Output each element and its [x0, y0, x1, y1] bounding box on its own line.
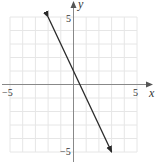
y-max-label: 5: [66, 13, 71, 24]
y-min-label: −5: [60, 146, 71, 157]
coordinate-plane: −5 5 x 5 −5 y: [0, 0, 159, 165]
x-min-label: −5: [2, 87, 13, 98]
x-max-label: 5: [133, 87, 138, 98]
x-axis-label: x: [148, 86, 155, 100]
y-axis-label: y: [77, 0, 84, 11]
